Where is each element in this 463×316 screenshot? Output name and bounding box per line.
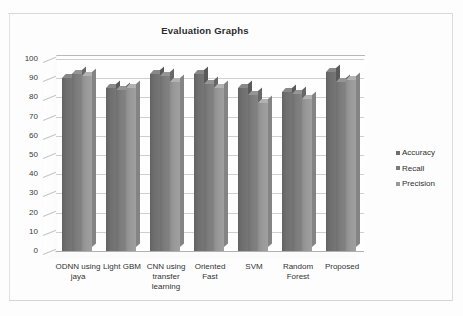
bar-precision-5 — [302, 99, 312, 251]
chart-legend: AccuracyRecallPrecision — [396, 148, 435, 195]
bar-face — [82, 76, 92, 251]
bar-recall-0 — [72, 74, 82, 251]
bar-accuracy-2 — [150, 74, 160, 251]
bar-face — [302, 99, 312, 251]
legend-item-label: Accuracy — [402, 148, 435, 157]
bar-face — [160, 76, 170, 251]
legend-item-accuracy[interactable]: Accuracy — [396, 148, 435, 157]
y-axis-tick-label: 90 — [12, 73, 38, 82]
bar-face — [238, 88, 248, 251]
bar-side-face — [356, 73, 360, 247]
bar-face — [258, 103, 268, 251]
x-axis-label-line: Forest — [270, 272, 326, 282]
bar-recall-1 — [116, 90, 126, 251]
square-marker — [396, 166, 400, 170]
bar-precision-0 — [82, 76, 92, 251]
gridline — [56, 59, 364, 60]
bar-accuracy-4 — [238, 88, 248, 251]
y-axis-tick-label: 80 — [12, 92, 38, 101]
bar-face — [150, 74, 160, 251]
bar-precision-2 — [170, 82, 180, 251]
bar-face — [106, 88, 116, 251]
x-axis-category-label: Proposed — [314, 262, 370, 272]
bar-face — [326, 72, 336, 251]
legend-item-label: Precision — [402, 179, 435, 188]
bar-face — [282, 92, 292, 251]
bar-accuracy-1 — [106, 88, 116, 251]
page-border-bottom — [9, 300, 452, 301]
x-axis-label-line: learning — [138, 282, 194, 292]
legend-item-label: Recall — [402, 164, 424, 173]
bar-face — [194, 74, 204, 251]
bar-accuracy-6 — [326, 72, 336, 251]
bar-face — [204, 84, 214, 251]
bar-precision-4 — [258, 103, 268, 251]
bar-recall-4 — [248, 95, 258, 251]
legend-item-recall[interactable]: Recall — [396, 164, 435, 173]
bar-face — [214, 88, 224, 251]
square-marker — [396, 151, 400, 155]
bar-accuracy-0 — [62, 78, 72, 251]
bar-face — [336, 82, 346, 251]
bar-precision-1 — [126, 88, 136, 251]
chart-floor — [44, 251, 364, 260]
bar-precision-6 — [346, 80, 356, 251]
y-axis-tick-label: 30 — [12, 188, 38, 197]
bar-side-face — [312, 92, 316, 247]
bar-accuracy-5 — [282, 92, 292, 251]
y-axis-tick-label: 70 — [12, 112, 38, 121]
x-axis-label-line: Proposed — [314, 262, 370, 272]
bar-recall-5 — [292, 94, 302, 251]
legend-item-precision[interactable]: Precision — [396, 179, 435, 188]
square-marker — [396, 182, 400, 186]
page-border-top — [8, 13, 452, 14]
y-axis-tick-label: 100 — [12, 54, 38, 63]
bar-accuracy-3 — [194, 74, 204, 251]
chart-title: Evaluation Graphs — [0, 25, 410, 36]
bar-side-face — [268, 96, 272, 247]
axis-baseline — [56, 251, 364, 252]
bar-face — [116, 90, 126, 251]
y-axis-tick-label: 20 — [12, 208, 38, 217]
bar-side-face — [136, 80, 140, 247]
bar-face — [72, 74, 82, 251]
bar-side-face — [180, 74, 184, 247]
chart-screenshot: Evaluation Graphs 1009080706050403020100… — [0, 0, 463, 316]
y-axis-tick-label: 60 — [12, 131, 38, 140]
bar-face — [292, 94, 302, 251]
y-axis-tick-label: 0 — [12, 246, 38, 255]
bar-recall-2 — [160, 76, 170, 251]
y-axis-tick-label: 40 — [12, 169, 38, 178]
bar-side-face — [224, 80, 228, 247]
bar-recall-6 — [336, 82, 346, 251]
y-axis-tick-label: 10 — [12, 227, 38, 236]
bar-face — [248, 95, 258, 251]
page-border-right — [452, 13, 453, 301]
bar-precision-3 — [214, 88, 224, 251]
page-border-left — [9, 13, 10, 301]
x-axis-label-line: jaya — [50, 272, 106, 282]
bar-side-face — [92, 69, 96, 247]
bar-face — [346, 80, 356, 251]
bar-face — [126, 88, 136, 251]
x-axis-label-line: Fast — [182, 272, 238, 282]
plot-area — [44, 55, 364, 259]
bar-face — [62, 78, 72, 251]
bar-face — [170, 82, 180, 251]
y-axis-tick-label: 50 — [12, 150, 38, 159]
bar-recall-3 — [204, 84, 214, 251]
